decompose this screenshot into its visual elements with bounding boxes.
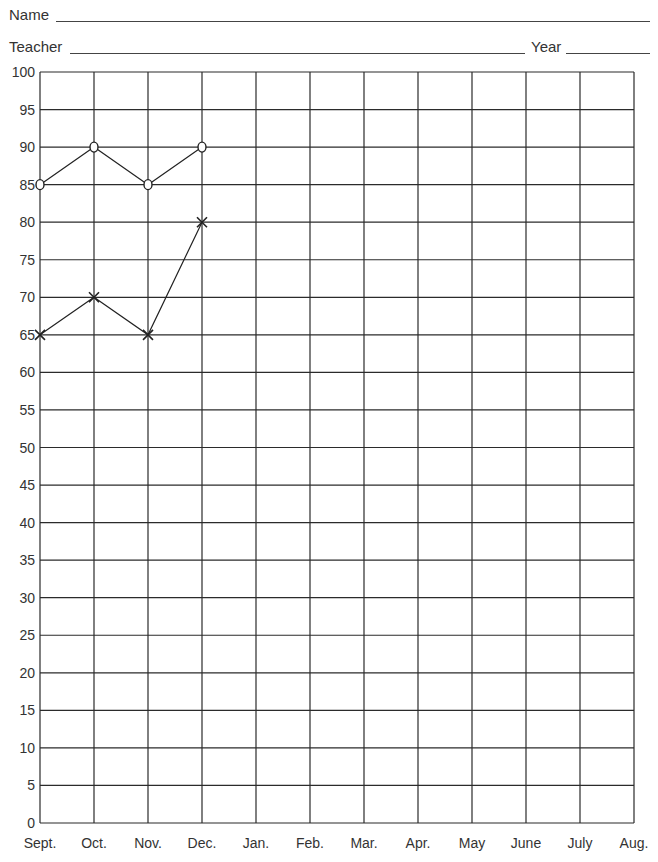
circle-marker-icon (36, 180, 44, 190)
y-tick-label: 95 (19, 102, 35, 118)
x-tick-label: Sept. (24, 835, 57, 851)
series-line (40, 147, 202, 185)
x-tick-label: May (459, 835, 485, 851)
x-tick-label: Dec. (188, 835, 217, 851)
y-tick-label: 10 (19, 740, 35, 756)
y-tick-label: 55 (19, 402, 35, 418)
chart-grid (40, 72, 634, 823)
x-tick-label: July (568, 835, 593, 851)
x-tick-label: Aug. (620, 835, 649, 851)
y-axis-labels: 0510152025303540455055606570758085909510… (12, 64, 36, 831)
series-line (40, 222, 202, 335)
x-tick-label: Oct. (81, 835, 107, 851)
y-tick-label: 40 (19, 515, 35, 531)
series-circle (36, 142, 206, 190)
y-tick-label: 60 (19, 364, 35, 380)
x-tick-label: Apr. (406, 835, 431, 851)
y-tick-label: 30 (19, 590, 35, 606)
y-tick-label: 0 (27, 815, 35, 831)
y-tick-label: 75 (19, 252, 35, 268)
x-tick-label: Nov. (134, 835, 162, 851)
y-tick-label: 85 (19, 177, 35, 193)
y-tick-label: 65 (19, 327, 35, 343)
x-tick-label: Mar. (350, 835, 377, 851)
y-tick-label: 15 (19, 702, 35, 718)
y-tick-label: 35 (19, 552, 35, 568)
circle-marker-icon (90, 142, 98, 152)
y-tick-label: 45 (19, 477, 35, 493)
circle-marker-icon (144, 180, 152, 190)
x-tick-label: June (511, 835, 542, 851)
y-tick-label: 20 (19, 665, 35, 681)
series-cross (35, 217, 207, 340)
x-axis-labels: Sept.Oct.Nov.Dec.Jan.Feb.Mar.Apr.MayJune… (24, 835, 649, 851)
y-tick-label: 70 (19, 289, 35, 305)
y-tick-label: 50 (19, 440, 35, 456)
y-tick-label: 100 (12, 64, 36, 80)
progress-chart: 0510152025303540455055606570758085909510… (0, 0, 658, 862)
circle-marker-icon (198, 142, 206, 152)
y-tick-label: 25 (19, 627, 35, 643)
y-tick-label: 90 (19, 139, 35, 155)
chart-series (35, 142, 207, 340)
y-tick-label: 5 (27, 777, 35, 793)
y-tick-label: 80 (19, 214, 35, 230)
x-tick-label: Feb. (296, 835, 324, 851)
x-tick-label: Jan. (243, 835, 269, 851)
